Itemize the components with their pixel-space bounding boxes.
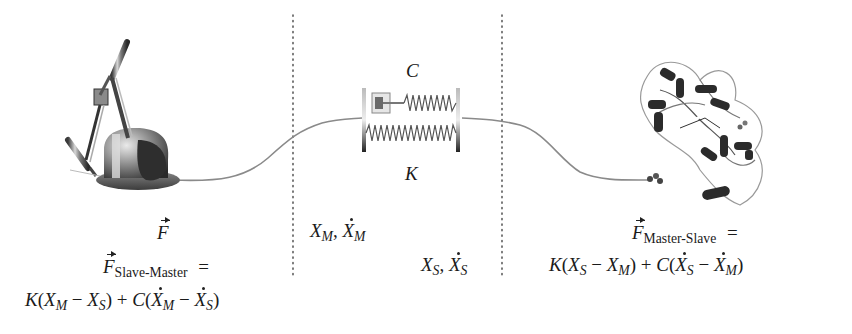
- force-subscript: Master-Slave: [644, 231, 717, 246]
- velocity-symbol: X: [343, 220, 355, 242]
- diagram-graphics: [0, 0, 852, 334]
- subscript: M: [726, 263, 737, 278]
- cable-left: [172, 118, 362, 180]
- master-slave-force-equation: K(XS − XM) + C(XS − XM): [549, 254, 743, 276]
- comma: ,: [333, 220, 338, 241]
- spring-label: K: [405, 163, 418, 185]
- damping-symbol: C: [656, 254, 669, 275]
- haptic-device-image: [68, 42, 180, 190]
- slave-state-label: XS, XS: [421, 254, 467, 276]
- spring-damper-icon: [362, 88, 460, 152]
- minus-sign: −: [72, 289, 83, 310]
- subscript: M: [322, 229, 333, 244]
- subscript: S: [461, 263, 468, 278]
- plus-sign: +: [641, 254, 652, 275]
- subscript: M: [354, 229, 365, 244]
- velocity-symbol: X: [151, 289, 163, 311]
- velocity-symbol: X: [714, 254, 726, 276]
- paren: ): [737, 254, 743, 275]
- minus-sign: −: [698, 254, 709, 275]
- minus-sign: −: [179, 289, 190, 310]
- paren: ): [106, 289, 112, 310]
- minus-sign: −: [591, 254, 602, 275]
- stiffness-symbol: K: [25, 289, 38, 310]
- teleoperation-diagram: C K F FSlave-Master = K(XM − XS) + C(XM …: [0, 0, 852, 334]
- comma: ,: [439, 254, 444, 275]
- paren: ): [630, 254, 636, 275]
- protein-molecule-image: [641, 62, 763, 205]
- master-slave-force-heading: FMaster-Slave =: [632, 222, 738, 244]
- position-symbol: X: [421, 254, 433, 275]
- force-vector-label: F: [157, 222, 169, 244]
- equals-sign: =: [198, 256, 209, 277]
- subscript: M: [618, 263, 629, 278]
- position-symbol: X: [44, 289, 56, 310]
- equals-sign: =: [727, 222, 738, 243]
- slave-master-force-equation: K(XM − XS) + C(XM − XS): [25, 289, 219, 311]
- plus-sign: +: [117, 289, 128, 310]
- velocity-symbol: X: [675, 254, 687, 276]
- position-symbol: X: [607, 254, 619, 275]
- subscript: M: [56, 298, 67, 313]
- position-symbol: X: [87, 289, 99, 310]
- force-symbol: F: [632, 222, 644, 244]
- slave-master-force-heading: FSlave-Master =: [103, 256, 209, 278]
- damper-label: C: [406, 60, 419, 82]
- subscript: S: [687, 263, 694, 278]
- subscript: S: [99, 298, 106, 313]
- position-symbol: X: [568, 254, 580, 275]
- damping-symbol: C: [132, 289, 145, 310]
- subscript: M: [163, 298, 174, 313]
- position-symbol: X: [310, 220, 322, 241]
- force-subscript: Slave-Master: [115, 265, 188, 280]
- velocity-symbol: X: [449, 254, 461, 276]
- paren: ): [213, 289, 219, 310]
- force-symbol: F: [157, 222, 169, 244]
- subscript: S: [580, 263, 587, 278]
- velocity-symbol: X: [194, 289, 206, 311]
- force-symbol: F: [103, 256, 115, 278]
- stiffness-symbol: K: [549, 254, 562, 275]
- master-state-label: XM, XM: [310, 220, 366, 242]
- subscript: S: [206, 298, 213, 313]
- cable-right: [462, 118, 648, 180]
